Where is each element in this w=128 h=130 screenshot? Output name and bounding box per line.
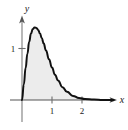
x-tick-label-2: 2 xyxy=(80,106,85,116)
y-tick-label-1: 1 xyxy=(11,44,16,54)
x-tick-label-1: 1 xyxy=(50,106,55,116)
x-axis-label: x xyxy=(119,94,125,105)
figure-container: y x 1 1 2 xyxy=(0,0,128,130)
shaded-area-under-curve xyxy=(22,27,114,100)
y-axis-label: y xyxy=(24,3,30,14)
function-graph-figure: y x 1 1 2 xyxy=(0,0,128,130)
